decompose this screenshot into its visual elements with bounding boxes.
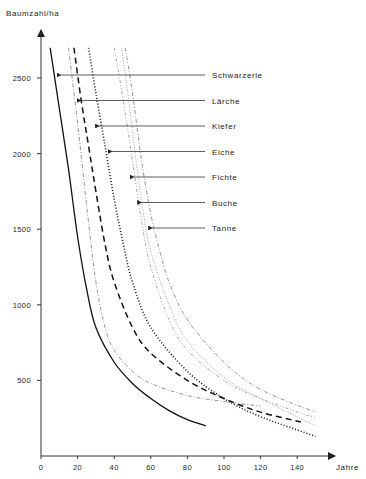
- species-labels: SchwarzerleLärcheKieferEicheFichteBucheT…: [61, 71, 263, 233]
- x-tick-label: 80: [183, 463, 192, 472]
- label-kiefer: Kiefer: [212, 122, 237, 131]
- tree-density-chart: Baumzahl/ha Jahre 5001000150020002500 02…: [0, 0, 366, 479]
- series-laerche: [74, 48, 301, 422]
- x-tick-label: 20: [73, 463, 82, 472]
- label-eiche: Eiche: [212, 148, 235, 157]
- x-tick-label: 60: [146, 463, 155, 472]
- label-laerche: Lärche: [212, 97, 240, 106]
- y-axis-title: Baumzahl/ha: [6, 9, 59, 18]
- x-tick-label: 140: [290, 463, 304, 472]
- series-lines: [50, 48, 315, 437]
- x-axis-title: Jahre: [336, 463, 359, 472]
- x-ticks: 020406080100120140: [39, 456, 304, 472]
- label-schwarzerle: Schwarzerle: [212, 71, 263, 80]
- x-tick-label: 40: [110, 463, 119, 472]
- series-schwarzerle: [50, 48, 206, 426]
- y-tick-label: 2000: [13, 150, 31, 159]
- label-tanne: Tanne: [212, 224, 237, 233]
- x-tick-label: 100: [217, 463, 231, 472]
- label-buche: Buche: [212, 199, 238, 208]
- label-fichte: Fichte: [212, 173, 237, 182]
- x-tick-label: 120: [254, 463, 268, 472]
- y-tick-label: 500: [17, 376, 31, 385]
- y-ticks: 5001000150020002500: [13, 74, 41, 385]
- y-tick-label: 1000: [13, 301, 31, 310]
- y-tick-label: 2500: [13, 74, 31, 83]
- x-tick-label: 0: [39, 463, 44, 472]
- y-tick-label: 1500: [13, 225, 31, 234]
- series-kiefer: [89, 48, 316, 437]
